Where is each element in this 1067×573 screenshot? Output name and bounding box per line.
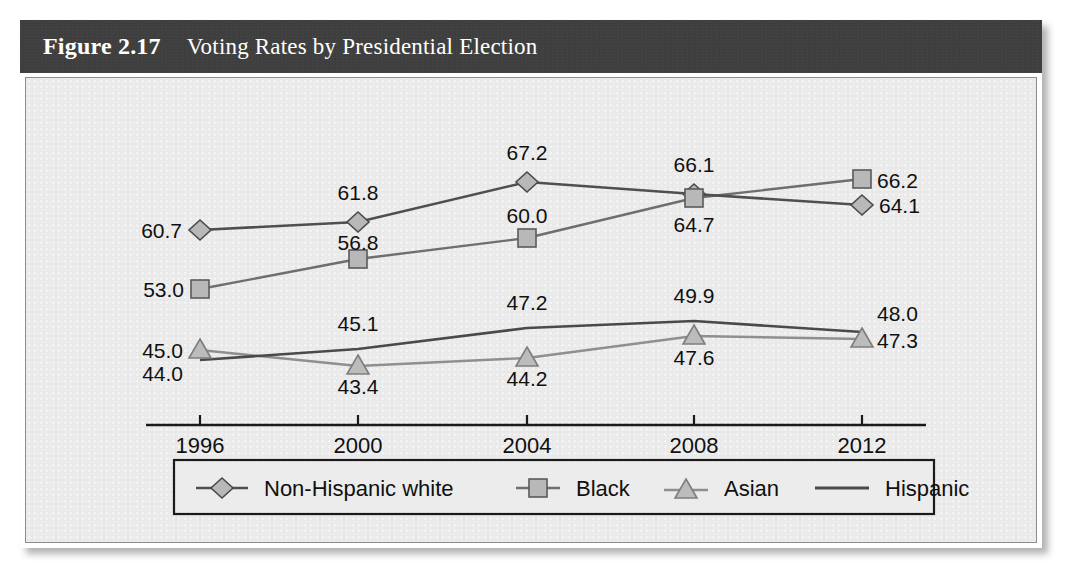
x-tick-label-1996: 1996 — [176, 433, 225, 458]
value-label-black-2012: 66.2 — [877, 169, 918, 192]
chart-legend: Non-Hispanic white Black Asian — [174, 460, 969, 514]
marker-diamond-1996 — [189, 220, 211, 240]
legend-label-black: Black — [576, 476, 631, 501]
value-label-nhw-2008: 66.1 — [674, 153, 715, 176]
figure-title: Voting Rates by Presidential Election — [187, 34, 538, 60]
legend-label-hispanic: Hispanic — [885, 476, 969, 501]
marker-square-2008 — [685, 189, 703, 207]
value-label-black-2008: 64.7 — [674, 213, 715, 236]
marker-square-1996 — [191, 280, 209, 298]
value-label-asian-2012: 47.3 — [877, 329, 918, 352]
value-label-nhw-2004: 67.2 — [507, 141, 548, 164]
value-label-nhw-1996: 60.7 — [141, 219, 182, 242]
value-label-black-2000: 56.8 — [338, 231, 379, 254]
figure-number: Figure 2.17 — [43, 33, 161, 60]
value-label-hispanic-2000: 45.1 — [338, 312, 379, 335]
marker-triangle-2008 — [683, 325, 705, 344]
value-label-asian-2008: 47.6 — [674, 346, 715, 369]
value-label-hispanic-2012: 48.0 — [877, 302, 918, 325]
value-label-black-2004: 60.0 — [507, 204, 548, 227]
figure-container: Figure 2.17 Voting Rates by Presidential… — [20, 20, 1042, 548]
marker-triangle-1996 — [189, 339, 211, 358]
marker-diamond-2004 — [516, 172, 538, 192]
value-label-asian-2004: 44.2 — [507, 367, 548, 390]
marker-diamond-2012 — [851, 195, 873, 215]
value-label-hispanic-1996: 44.0 — [142, 362, 183, 385]
x-tick-label-2004: 2004 — [503, 433, 552, 458]
x-tick-label-2012: 2012 — [838, 433, 887, 458]
value-label-asian-2000: 43.4 — [338, 375, 379, 398]
value-label-black-1996: 53.0 — [143, 278, 184, 301]
x-tick-label-2008: 2008 — [670, 433, 719, 458]
chart-panel: 60.7 61.8 67.2 66.1 64.1 53.0 56.8 60.0 … — [25, 77, 1037, 543]
x-tick-label-2000: 2000 — [334, 433, 383, 458]
legend-label-non-hispanic-white: Non-Hispanic white — [264, 476, 454, 501]
value-label-hispanic-2004: 47.2 — [507, 291, 548, 314]
value-label-nhw-2000: 61.8 — [338, 181, 379, 204]
value-label-nhw-2012: 64.1 — [879, 194, 920, 217]
marker-square-2004 — [518, 229, 536, 247]
marker-square-2012 — [853, 170, 871, 188]
figure-header-bar: Figure 2.17 Voting Rates by Presidential… — [20, 20, 1042, 73]
x-axis-ticks — [200, 415, 862, 425]
value-label-hispanic-2008: 49.9 — [674, 284, 715, 307]
value-label-asian-1996: 45.0 — [142, 339, 183, 362]
marker-diamond-2000 — [347, 212, 369, 232]
voting-rates-line-chart: 60.7 61.8 67.2 66.1 64.1 53.0 56.8 60.0 … — [26, 78, 1036, 542]
legend-square-icon — [529, 479, 547, 497]
legend-label-asian: Asian — [724, 476, 779, 501]
